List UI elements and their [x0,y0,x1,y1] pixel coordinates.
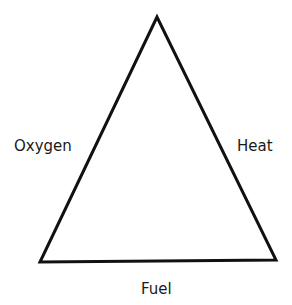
oxygen-label: Oxygen [14,137,72,155]
heat-label: Heat [237,137,273,155]
fuel-label: Fuel [141,280,172,298]
